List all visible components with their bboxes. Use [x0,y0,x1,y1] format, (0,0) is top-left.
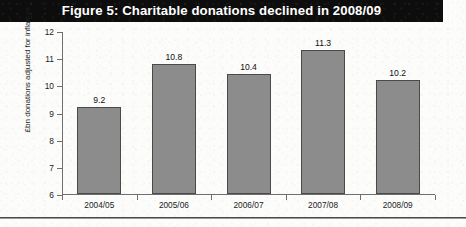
y-axis-title: £bn donations adjusted for inflation [23,0,32,146]
bar [301,50,345,194]
x-axis-tick [360,195,361,200]
y-axis-tick-label: 9 [49,109,54,117]
y-axis-tick-label: 10 [45,82,54,90]
y-axis-tick: 12 [57,32,62,33]
y-axis-tick-label: 11 [45,55,54,63]
x-axis-label: 2005/06 [159,201,189,209]
figure-title: Figure 5: Charitable donations declined … [62,4,381,18]
bar-value-label: 10.4 [240,63,257,72]
y-axis-tick-label: 7 [49,164,54,172]
y-axis-line [62,32,63,195]
bar [376,80,420,194]
x-axis-tick [435,195,436,200]
bar-value-label: 10.8 [166,53,183,62]
x-axis-label: 2006/07 [234,201,264,209]
x-axis-label: 2007/08 [308,201,338,209]
x-axis-tick [62,195,63,200]
bar-value-label: 9.2 [93,96,105,105]
y-axis-tick: 10 [57,86,62,87]
plot-area: 6789101112 9.210.810.411.310.2 2004/0520… [62,32,435,195]
footer-rule [0,217,466,219]
x-axis-line [62,194,435,195]
figure-title-bar: Figure 5: Charitable donations declined … [0,0,443,22]
x-axis-tick [211,195,212,200]
figure-page: Figure 5: Charitable donations declined … [0,0,466,227]
y-axis-tick: 7 [57,168,62,169]
bar [77,107,121,194]
bar [152,64,196,194]
y-axis-tick: 11 [57,59,62,60]
x-axis-tick [137,195,138,200]
x-axis-label: 2008/09 [383,201,413,209]
x-axis-label: 2004/05 [84,201,114,209]
bar [227,74,271,194]
bar-chart: £bn donations adjusted for inflation 678… [0,22,466,218]
y-axis-tick-label: 6 [49,191,54,199]
y-axis-tick: 9 [57,114,62,115]
y-axis-tick: 8 [57,141,62,142]
y-axis-tick-label: 12 [45,28,54,36]
x-axis-tick [286,195,287,200]
bar-value-label: 11.3 [315,39,331,48]
y-axis-tick-label: 8 [49,136,54,144]
bar-value-label: 10.2 [389,69,406,78]
